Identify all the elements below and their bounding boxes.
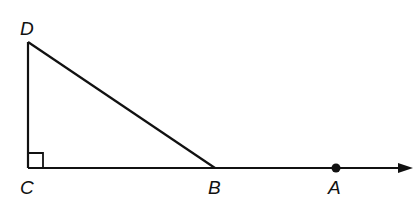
right-angle-marker — [28, 153, 43, 168]
label-c: C — [20, 177, 34, 198]
point-a-dot — [332, 164, 341, 173]
segment-db — [28, 42, 215, 168]
label-a: A — [327, 177, 341, 198]
label-d: D — [20, 18, 34, 39]
arrowhead-icon — [398, 163, 413, 173]
geometry-diagram: D C B A — [0, 0, 413, 202]
label-b: B — [208, 177, 221, 198]
